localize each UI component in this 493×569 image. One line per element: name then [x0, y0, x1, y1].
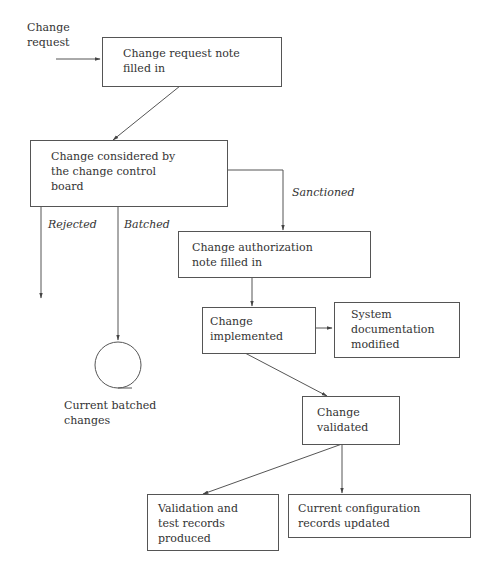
- node-text: Change validated: [317, 405, 385, 435]
- edge-label-rejected: Rejected: [48, 217, 97, 232]
- arrow-request-to-ccb: [113, 86, 180, 140]
- node-ccb: Change considered by the change control …: [30, 140, 228, 207]
- node-implemented: Change implemented: [202, 307, 316, 354]
- arrow-sanctioned: [227, 170, 283, 230]
- node-auth-note: Change authorization note filled in: [178, 231, 371, 278]
- node-request-note: Change request note filled in: [102, 37, 282, 87]
- input-label: Change request: [27, 20, 70, 50]
- store-label: Current batched changes: [64, 398, 156, 428]
- edge-label-sanctioned: Sanctioned: [292, 185, 355, 200]
- node-sysdoc: System documentation modified: [334, 302, 460, 358]
- batched-store-icon: [95, 342, 141, 388]
- node-text: System documentation modified: [351, 307, 443, 352]
- edge-label-batched: Batched: [124, 217, 170, 232]
- node-text: Change considered by the change control …: [51, 149, 207, 194]
- node-text: Validation and test records produced: [158, 501, 268, 546]
- arrow-validated-to-test: [203, 444, 342, 494]
- node-text: Change authorization note filled in: [192, 240, 357, 270]
- node-validated: Change validated: [302, 396, 400, 445]
- node-test-records: Validation and test records produced: [147, 494, 279, 551]
- node-text: Current configuration records updated: [298, 501, 461, 531]
- node-config-records: Current configuration records updated: [288, 494, 471, 538]
- node-text: Change request note filled in: [123, 46, 261, 76]
- node-text: Change implemented: [210, 314, 308, 344]
- arrow-impl-to-validated: [245, 353, 327, 396]
